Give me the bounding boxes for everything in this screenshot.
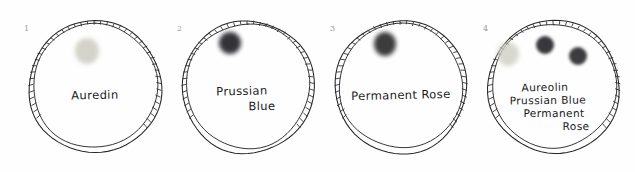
rim-hatch-tick <box>594 36 597 38</box>
rim-hatch-tick <box>310 83 314 84</box>
rim-hatch-tick <box>546 22 547 25</box>
rim-hatch-tick <box>30 97 34 99</box>
rim-hatch-tick <box>609 113 613 116</box>
rim-hatch-tick <box>489 97 493 99</box>
rim-hatch-tick <box>297 124 300 128</box>
aureolin-blob <box>75 38 99 64</box>
rim-hatch-tick <box>572 24 573 27</box>
rim-hatch-tick <box>199 42 202 44</box>
rim-hatch-tick <box>413 22 414 25</box>
rim-hatch-tick <box>309 89 313 90</box>
rim-hatch-tick <box>309 76 313 77</box>
rim-hatch-tick <box>300 52 304 53</box>
rim-hatch-tick <box>352 43 355 45</box>
rim-hatch-tick <box>357 38 360 40</box>
circle-rim-hatching <box>335 21 467 128</box>
rim-hatch-tick <box>344 54 348 55</box>
swatch-circle-3: 3Permanent Rose <box>330 21 467 154</box>
aureolin-blob <box>497 42 519 66</box>
prussian-blue-blob <box>536 36 554 54</box>
rim-hatch-tick <box>124 29 126 32</box>
rim-hatch-tick <box>584 29 586 31</box>
rim-hatch-tick <box>234 23 235 26</box>
rim-hatch-tick <box>306 107 310 110</box>
rim-hatch-tick <box>578 26 580 29</box>
rim-hatch-tick <box>32 103 36 105</box>
rim-hatch-tick <box>612 108 616 111</box>
rim-hatch-tick <box>304 113 308 116</box>
rim-hatch-tick <box>488 84 492 85</box>
rim-hatch-tick <box>446 41 449 43</box>
swatch-number-label: 4 <box>483 24 488 33</box>
pigment-name-line: Prussian <box>216 83 268 98</box>
rim-hatch-tick <box>135 37 138 39</box>
rim-hatch-tick <box>589 33 591 35</box>
rim-hatch-tick <box>615 76 619 77</box>
rim-hatch-tick <box>147 119 151 123</box>
rim-hatch-tick <box>488 91 492 93</box>
rim-hatch-tick <box>182 91 186 93</box>
rim-hatch-tick <box>187 109 191 112</box>
circle-rim-hatching <box>29 21 161 128</box>
rim-hatch-tick <box>300 118 304 122</box>
swatch-circle-4: 4AureolinPrussian BluePermanentRose <box>483 20 620 153</box>
rim-hatch-tick <box>209 33 211 35</box>
prussian-blue-blob <box>219 32 241 54</box>
rim-hatch-tick <box>293 41 296 43</box>
swatch-sheet: 1Auredin2PrussianBlue3Permanent Rose4Aur… <box>0 0 635 172</box>
rim-hatch-tick <box>51 38 54 40</box>
rim-hatch-tick <box>188 59 192 60</box>
rim-hatch-tick <box>449 46 452 48</box>
rim-hatch-tick <box>566 22 567 25</box>
rim-hatch-tick <box>56 34 58 36</box>
rim-hatch-tick <box>37 115 41 118</box>
swatch-number-label: 1 <box>24 24 29 33</box>
rim-hatch-tick <box>456 58 460 59</box>
rim-hatch-tick <box>227 24 228 27</box>
rim-hatch-tick <box>607 119 610 122</box>
rim-hatch-tick <box>496 115 500 118</box>
rim-hatch-tick <box>490 103 494 105</box>
rim-hatch-tick <box>151 113 155 116</box>
rim-hatch-tick <box>155 101 159 103</box>
rim-hatch-tick <box>540 22 541 25</box>
rim-hatch-tick <box>462 76 466 77</box>
swatch-number-label: 3 <box>330 24 335 33</box>
pigment-name-line: Permanent <box>523 107 584 119</box>
pigment-name-line: Blue <box>248 99 275 113</box>
rim-hatch-tick <box>309 95 313 97</box>
rim-hatch-tick <box>151 58 155 59</box>
rim-hatch-tick <box>493 109 497 112</box>
swatch-circle-2: 2PrussianBlue <box>177 21 314 154</box>
rim-hatch-tick <box>144 124 147 128</box>
rim-hatch-tick <box>436 32 438 34</box>
rim-hatch-tick <box>221 27 223 30</box>
rim-hatch-tick <box>62 30 64 32</box>
rim-hatch-tick <box>454 52 457 53</box>
pigment-name-line: Permanent Rose <box>351 87 451 103</box>
rim-hatch-tick <box>348 48 351 49</box>
permanent-rose-blob <box>374 32 396 56</box>
rim-hatch-tick <box>336 78 340 79</box>
rim-hatch-tick <box>598 41 601 43</box>
rim-hatch-tick <box>34 109 38 112</box>
circle-inner-rim <box>34 23 158 147</box>
rim-hatch-tick <box>215 30 217 33</box>
rim-hatch-tick <box>603 124 606 128</box>
pigment-name-line: Auredin <box>71 88 119 103</box>
rim-hatch-tick <box>308 101 312 103</box>
circle-inner-rim <box>339 23 462 148</box>
circles-group: 1Auredin2PrussianBlue3Permanent Rose4Aur… <box>24 20 620 154</box>
rim-hatch-tick <box>119 26 121 29</box>
pigment-name-line: Rose <box>562 120 589 132</box>
pigment-name-line: Prussian Blue <box>510 94 587 107</box>
rim-hatch-tick <box>30 91 34 93</box>
rim-hatch-tick <box>74 24 75 27</box>
rim-hatch-tick <box>441 37 444 39</box>
permanent-rose-blob <box>569 47 587 65</box>
rim-hatch-tick <box>46 42 49 44</box>
rim-hatch-tick <box>130 32 132 34</box>
circle-outer-rim <box>29 21 162 153</box>
pigment-name-line: Aureolin <box>521 81 568 94</box>
swatch-circle-1: 1Auredin <box>24 21 162 153</box>
